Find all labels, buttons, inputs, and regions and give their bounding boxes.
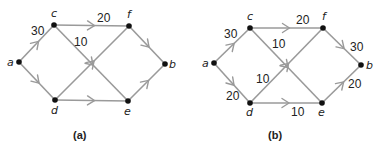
node-label: d (246, 106, 254, 119)
graph-b: 3020201010103020acfbde(b) (202, 10, 373, 141)
node-f: f (126, 8, 133, 29)
edge-d-e (55, 96, 128, 105)
node-label: b (169, 58, 176, 71)
node-a: a (7, 56, 22, 69)
node-a: a (202, 57, 217, 70)
node-c: c (247, 10, 253, 31)
edge-weight-label: 30 (350, 40, 364, 54)
node-label: c (247, 10, 253, 23)
edge-e-b: 20 (322, 65, 362, 103)
edge-weight-label: 10 (291, 105, 305, 119)
edge-weight-label: 30 (224, 27, 238, 41)
edge-d-e: 10 (250, 99, 322, 120)
edge-weight-label: 20 (226, 89, 240, 103)
edge-f-b: 30 (323, 28, 364, 65)
edge-f-b (129, 26, 165, 64)
edge-weight-label: 30 (31, 24, 45, 38)
node-label: e (318, 106, 325, 119)
edge-weight-label: 20 (296, 13, 310, 27)
node-label: a (202, 57, 209, 70)
graph-caption: (a) (73, 129, 87, 141)
node-label: e (124, 105, 131, 118)
edge-a-d: 20 (214, 63, 250, 103)
node-f: f (320, 10, 328, 31)
node-label: a (7, 56, 14, 69)
edge-c-f: 20 (250, 13, 323, 33)
edge-a-c: 30 (19, 24, 54, 62)
node-label: f (127, 8, 133, 21)
node-c: c (51, 7, 57, 28)
edge-weight-label: 20 (348, 77, 362, 91)
edge-weight-label: 20 (97, 11, 111, 25)
node-label: c (51, 7, 57, 20)
graph-a: 302010acfbde(a) (7, 7, 176, 141)
edge-c-f: 20 (54, 11, 129, 30)
edge-a-d (19, 62, 55, 100)
network-flow-diagram: 302010acfbde(a)3020201010103020acfbde(b) (0, 0, 383, 153)
edge-a-c: 30 (214, 27, 250, 63)
edge-weight-label: 10 (74, 35, 88, 49)
node-label: b (366, 59, 373, 72)
edge-weight-label: 10 (272, 37, 286, 51)
edge-e-b (128, 64, 165, 101)
node-b: b (162, 58, 176, 71)
graph-caption: (b) (268, 129, 282, 141)
node-label: f (322, 10, 328, 23)
node-b: b (358, 59, 373, 72)
edge-weight-label: 10 (256, 72, 270, 86)
node-label: d (51, 104, 59, 117)
